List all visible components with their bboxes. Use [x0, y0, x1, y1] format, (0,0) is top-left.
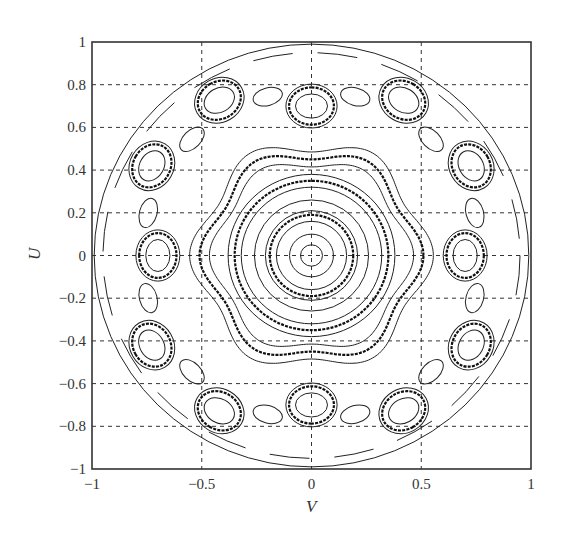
y-tick-label: −1	[70, 461, 86, 477]
y-tick-label: 0	[79, 248, 87, 264]
contour-island	[444, 316, 499, 373]
contour-island	[443, 230, 487, 281]
contour-island	[375, 383, 432, 438]
contour-island	[124, 137, 179, 194]
contour-island	[371, 379, 437, 443]
contour-island	[444, 137, 499, 194]
contour-island	[453, 239, 477, 271]
y-tick-label: −0.6	[59, 376, 87, 392]
y-tick-label: −0.4	[59, 333, 87, 349]
y-tick-label: 0.8	[67, 77, 86, 93]
contour-lobe	[339, 402, 372, 427]
contour-island	[191, 73, 248, 128]
contour-lobe	[462, 196, 487, 229]
contour-lobe	[339, 84, 372, 109]
y-axis-ticks: 10.80.60.40.20−0.2−0.4−0.6−0.8−1	[59, 34, 87, 477]
contour-lobe	[251, 84, 284, 109]
y-axis-label: U	[25, 246, 44, 260]
x-tick-label: 1	[527, 476, 535, 492]
contour-plot: −1−0.500.51 10.80.60.40.20−0.2−0.4−0.6−0…	[0, 0, 561, 534]
x-tick-label: 0	[308, 476, 316, 492]
x-axis-ticks: −1−0.500.51	[84, 476, 535, 492]
contour-island	[375, 73, 432, 128]
contour-island	[439, 312, 503, 378]
y-tick-label: 1	[79, 34, 87, 50]
contour-island	[371, 68, 437, 132]
x-axis-label: V	[306, 497, 319, 516]
contour-island	[191, 383, 248, 438]
contour-island	[186, 68, 252, 132]
x-tick-label: −0.5	[188, 476, 215, 492]
contour-island	[439, 133, 503, 199]
contour-island	[186, 379, 252, 443]
y-tick-label: −0.2	[59, 290, 86, 306]
x-tick-label: −1	[84, 476, 100, 492]
contour-lobe	[462, 281, 487, 314]
y-tick-label: 0.2	[67, 205, 86, 221]
contour-island	[124, 316, 179, 373]
y-tick-label: 0.4	[67, 162, 86, 178]
y-tick-label: 0.6	[67, 119, 86, 135]
contour-island	[120, 312, 184, 378]
contour-lobe	[251, 402, 284, 427]
y-tick-label: −0.8	[59, 418, 86, 434]
x-tick-label: 0.5	[412, 476, 431, 492]
contour-island	[120, 133, 184, 199]
